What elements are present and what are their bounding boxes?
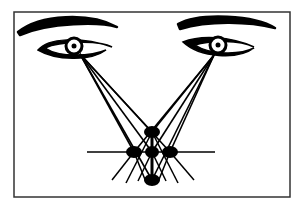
sight-line-left (80, 54, 152, 152)
eyebrow-left (18, 17, 117, 35)
eyes (18, 16, 275, 58)
pupil-left (72, 44, 77, 49)
eyebrow-right (178, 16, 275, 29)
fixation-targets (126, 126, 178, 186)
target-dot-right (162, 146, 178, 158)
target-dot-top (144, 126, 160, 138)
eye-left (18, 17, 117, 58)
target-dot-bottom (144, 174, 160, 186)
sight-line-left (80, 54, 152, 180)
pupil-right (216, 43, 221, 48)
sight-line-right (152, 55, 214, 152)
eye-convergence-diagram (0, 0, 303, 212)
target-dot-center (145, 146, 159, 158)
target-dot-left (126, 146, 142, 158)
sight-line-right (152, 55, 214, 180)
eye-right (178, 16, 275, 55)
sight-line-right (134, 55, 214, 152)
diagram-canvas (0, 0, 303, 212)
